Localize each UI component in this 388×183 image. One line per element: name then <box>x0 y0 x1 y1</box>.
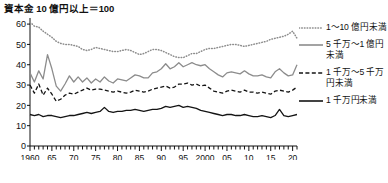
legend-line-swatch-icon <box>299 39 323 50</box>
x-tick-label: 10 <box>244 153 254 160</box>
data-series-group <box>30 22 297 117</box>
chart-legend: 1～10 億円未満5 千万～1 億円未満1 千万～5 千万円未満1 千万円未満 <box>299 22 388 112</box>
legend-line-swatch-icon <box>299 95 323 106</box>
plot-area: 0102030405060 19606570758085909520000510… <box>0 14 300 160</box>
x-tick-label: 15 <box>266 153 276 160</box>
legend-entry[interactable]: 1～10 億円未満 <box>299 22 388 33</box>
legend-label: 1～10 億円未満 <box>326 22 386 33</box>
x-tick-label: 1960 <box>21 153 40 160</box>
x-tick-label: 05 <box>222 153 232 160</box>
chart-figure: 資本金 10 億円以上＝100 0102030405060 1960657075… <box>0 0 388 183</box>
legend-entry[interactable]: 1 千万円未満 <box>299 95 388 106</box>
chart-title: 資本金 10 億円以上＝100 <box>4 1 114 15</box>
legend-line-swatch-icon <box>299 67 323 78</box>
x-axis-tick-labels: 196065707580859095200005101520 <box>21 153 298 160</box>
x-tick-label: 20 <box>288 153 298 160</box>
series-line-1 <box>30 55 297 92</box>
y-tick-label: 50 <box>16 40 26 50</box>
legend-label: 5 千万～1 億円未満 <box>326 39 388 61</box>
x-tick-label: 75 <box>91 153 101 160</box>
legend-label: 1 千万～5 千万円未満 <box>326 67 388 89</box>
y-axis-tick-labels: 0102030405060 <box>16 19 26 151</box>
x-tick-label: 95 <box>178 153 188 160</box>
series-line-2 <box>30 83 297 101</box>
x-tick-label: 2000 <box>196 153 215 160</box>
y-tick-label: 40 <box>16 60 26 70</box>
x-axis-tick-marks <box>30 146 297 151</box>
legend-line-swatch-icon <box>299 22 323 33</box>
y-tick-label: 10 <box>16 121 26 131</box>
y-tick-label: 0 <box>21 141 26 151</box>
legend-entry[interactable]: 1 千万～5 千万円未満 <box>299 67 388 89</box>
y-tick-label: 60 <box>16 19 26 29</box>
x-tick-label: 85 <box>135 153 145 160</box>
x-tick-label: 70 <box>69 153 79 160</box>
x-tick-label: 80 <box>113 153 123 160</box>
y-tick-label: 30 <box>16 80 26 90</box>
x-tick-label: 90 <box>157 153 167 160</box>
y-tick-label: 20 <box>16 101 26 111</box>
series-line-3 <box>30 105 297 117</box>
plot-svg: 0102030405060 19606570758085909520000510… <box>0 14 300 160</box>
series-line-0 <box>30 22 297 58</box>
legend-entry[interactable]: 5 千万～1 億円未満 <box>299 39 388 61</box>
legend-label: 1 千万円未満 <box>326 95 377 106</box>
x-tick-label: 65 <box>47 153 57 160</box>
